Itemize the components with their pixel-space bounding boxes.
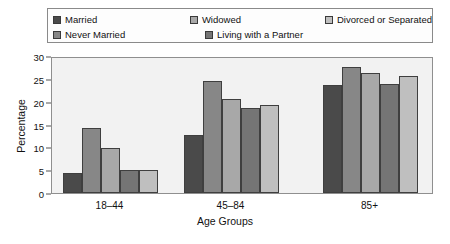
bar: [323, 85, 342, 193]
chart-legend: Married Widowed Divorced or Separated Ne…: [47, 8, 433, 43]
legend-swatch-widowed: [190, 16, 198, 24]
legend-item-never-married: Never Married: [53, 30, 205, 40]
y-tick-label: 0: [39, 189, 44, 200]
legend-swatch-married: [53, 16, 61, 24]
x-axis-title: Age Groups: [0, 215, 450, 227]
bar: [222, 99, 241, 193]
bar: [260, 105, 279, 193]
bar-group-85+: [323, 58, 418, 193]
legend-swatch-never-married: [53, 31, 61, 39]
y-axis: 051015202530: [0, 57, 51, 195]
bar-group-4584: [184, 58, 279, 193]
bar: [203, 81, 222, 193]
plot-area: [51, 57, 433, 194]
bar: [380, 84, 399, 193]
legend-item-widowed: Widowed: [190, 15, 325, 25]
legend-label-never-married: Never Married: [65, 30, 125, 40]
legend-row-2: Never Married Living with a Partner: [53, 27, 432, 42]
bar: [82, 128, 101, 193]
bar: [361, 73, 380, 193]
legend-label-married: Married: [65, 15, 97, 25]
bar: [120, 170, 139, 193]
bar: [399, 76, 418, 193]
legend-swatch-divorced-or-separated: [325, 16, 333, 24]
x-tick-label: 18–44: [96, 200, 124, 211]
bar: [342, 67, 361, 193]
bar-group-1844: [63, 58, 158, 193]
y-tick-label: 15: [33, 120, 44, 131]
bar: [184, 135, 203, 193]
plot-inner: [52, 58, 432, 193]
bar: [63, 173, 82, 193]
y-tick-label: 30: [33, 52, 44, 63]
x-tick-label: 85+: [361, 200, 378, 211]
legend-label-divorced-or-separated: Divorced or Separated: [337, 15, 432, 25]
bar-chart-figure: Married Widowed Divorced or Separated Ne…: [0, 0, 450, 244]
y-tick-label: 25: [33, 74, 44, 85]
legend-item-married: Married: [53, 15, 190, 25]
legend-item-divorced-or-separated: Divorced or Separated: [325, 15, 432, 25]
y-tick-label: 20: [33, 97, 44, 108]
x-tick-label: 45–84: [217, 200, 245, 211]
bar: [139, 170, 158, 193]
legend-swatch-living-with-a-partner: [205, 31, 213, 39]
legend-item-living-with-a-partner: Living with a Partner: [205, 30, 355, 40]
y-tick-label: 10: [33, 143, 44, 154]
bar: [101, 148, 120, 193]
legend-row-1: Married Widowed Divorced or Separated: [53, 12, 432, 27]
legend-label-widowed: Widowed: [202, 15, 241, 25]
legend-label-living-with-a-partner: Living with a Partner: [217, 30, 303, 40]
bar: [241, 108, 260, 193]
y-tick-label: 5: [39, 166, 44, 177]
